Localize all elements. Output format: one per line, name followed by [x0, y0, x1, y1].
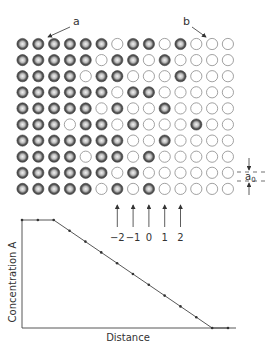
empty-site	[159, 71, 170, 82]
empty-site	[175, 87, 186, 98]
filled-atom	[49, 151, 60, 162]
empty-site	[128, 135, 139, 146]
diffusion-diagram: a b a0 −2−1012 Distance Concentration A	[0, 0, 280, 353]
empty-site	[222, 103, 233, 114]
empty-site	[159, 167, 170, 178]
label-a: a	[73, 15, 80, 28]
filled-atom	[112, 55, 123, 66]
empty-site	[143, 167, 154, 178]
empty-site	[80, 71, 91, 82]
filled-atom	[80, 183, 91, 194]
data-point	[179, 305, 182, 308]
filled-atom	[64, 87, 75, 98]
data-point	[37, 219, 40, 222]
empty-site	[128, 71, 139, 82]
filled-atom	[175, 71, 186, 82]
empty-site	[207, 87, 218, 98]
plane-markers: −2−1012	[110, 205, 184, 243]
empty-site	[207, 71, 218, 82]
filled-atom	[80, 167, 91, 178]
filled-atom	[17, 71, 28, 82]
empty-site	[64, 119, 75, 130]
plane-label: 2	[177, 232, 183, 243]
filled-atom	[175, 38, 186, 49]
filled-atom	[64, 135, 75, 146]
empty-site	[143, 135, 154, 146]
filled-atom	[80, 135, 91, 146]
data-point	[227, 327, 230, 330]
plane-label: 0	[146, 232, 152, 243]
filled-atom	[49, 87, 60, 98]
filled-atom	[33, 55, 44, 66]
filled-atom	[159, 103, 170, 114]
data-point	[132, 273, 135, 276]
filled-atom	[96, 71, 107, 82]
empty-site	[175, 151, 186, 162]
data-point	[163, 294, 166, 297]
empty-site	[175, 183, 186, 194]
filled-atom	[33, 71, 44, 82]
empty-site	[222, 167, 233, 178]
filled-atom	[33, 183, 44, 194]
data-point	[68, 230, 71, 233]
arrow-a-icon	[48, 27, 70, 37]
empty-site	[128, 103, 139, 114]
filled-atom	[80, 119, 91, 130]
filled-atom	[64, 38, 75, 49]
empty-site	[222, 55, 233, 66]
plane-label: −2	[110, 232, 125, 243]
empty-site	[80, 151, 91, 162]
empty-site	[191, 71, 202, 82]
empty-site	[222, 71, 233, 82]
data-point	[21, 219, 24, 222]
label-a0: a0	[245, 171, 256, 184]
arrow-b-icon	[192, 27, 206, 37]
filled-atom	[80, 38, 91, 49]
empty-site	[143, 71, 154, 82]
empty-site	[159, 183, 170, 194]
empty-site	[159, 119, 170, 130]
filled-atom	[112, 103, 123, 114]
filled-atom	[128, 38, 139, 49]
empty-site	[143, 119, 154, 130]
empty-site	[128, 151, 139, 162]
filled-atom	[96, 167, 107, 178]
filled-atom	[17, 87, 28, 98]
filled-atom	[143, 183, 154, 194]
filled-atom	[96, 87, 107, 98]
label-a-annotation: a	[48, 15, 80, 37]
filled-atom	[33, 167, 44, 178]
filled-atom	[17, 135, 28, 146]
filled-atom	[80, 103, 91, 114]
x-axis-label: Distance	[106, 332, 150, 343]
filled-atom	[143, 38, 154, 49]
filled-atom	[49, 119, 60, 130]
filled-atom	[159, 55, 170, 66]
filled-atom	[128, 87, 139, 98]
filled-atom	[17, 167, 28, 178]
filled-atom	[112, 135, 123, 146]
empty-site	[159, 151, 170, 162]
filled-atom	[49, 55, 60, 66]
data-point	[116, 262, 119, 265]
empty-site	[207, 119, 218, 130]
filled-atom	[96, 119, 107, 130]
filled-atom	[112, 151, 123, 162]
filled-atom	[64, 55, 75, 66]
empty-site	[207, 38, 218, 49]
filled-atom	[143, 151, 154, 162]
empty-site	[112, 38, 123, 49]
filled-atom	[64, 167, 75, 178]
filled-atom	[64, 71, 75, 82]
filled-atom	[17, 103, 28, 114]
filled-atom	[96, 38, 107, 49]
data-point	[195, 316, 198, 319]
data-point	[84, 240, 87, 243]
empty-site	[207, 167, 218, 178]
empty-site	[112, 167, 123, 178]
y-axis-label: Concentration A	[7, 241, 18, 322]
label-b-annotation: b	[183, 15, 206, 37]
empty-site	[222, 119, 233, 130]
empty-site	[191, 103, 202, 114]
filled-atom	[33, 103, 44, 114]
